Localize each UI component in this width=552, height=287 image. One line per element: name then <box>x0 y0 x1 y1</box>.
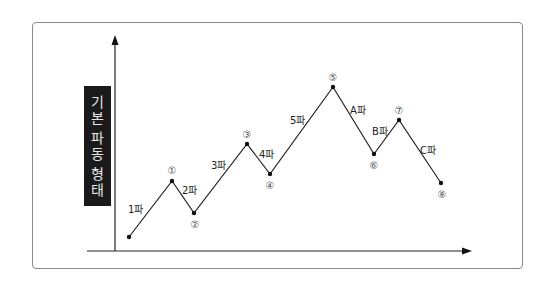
point-label-4: ④ <box>266 180 275 191</box>
wave-label-b: B파 <box>372 126 388 137</box>
point-label-5: ⑤ <box>329 72 338 83</box>
wave-label-c: C파 <box>420 145 436 156</box>
point-label-8: ⑧ <box>438 189 447 200</box>
point-label-2: ② <box>191 219 200 230</box>
wave-label-3: 3파 <box>211 160 226 171</box>
point-1 <box>170 179 174 183</box>
wave-diagram: ① ② ③ ④ ⑤ ⑥ ⑦ ⑧ 1파 2파 3파 4파 5파 A파 B파 C파 <box>0 0 552 287</box>
wave-label-a: A파 <box>350 105 366 116</box>
y-axis-arrow-icon <box>112 35 119 45</box>
point-2 <box>192 211 196 215</box>
wave-label-5: 5파 <box>290 115 305 126</box>
wave-label-2: 2파 <box>182 185 197 196</box>
point-8 <box>439 181 443 185</box>
point-start <box>127 235 131 239</box>
point-label-6: ⑥ <box>370 160 379 171</box>
point-label-1: ① <box>168 165 177 176</box>
point-6 <box>372 152 376 156</box>
wave-label-4: 4파 <box>259 149 274 160</box>
x-axis-arrow-icon <box>462 248 472 255</box>
point-4 <box>268 172 272 176</box>
point-label-3: ③ <box>243 129 252 140</box>
wave-label-1: 1파 <box>128 204 143 215</box>
point-3 <box>245 142 249 146</box>
point-label-7: ⑦ <box>395 105 404 116</box>
point-7 <box>397 118 401 122</box>
point-5 <box>331 85 335 89</box>
